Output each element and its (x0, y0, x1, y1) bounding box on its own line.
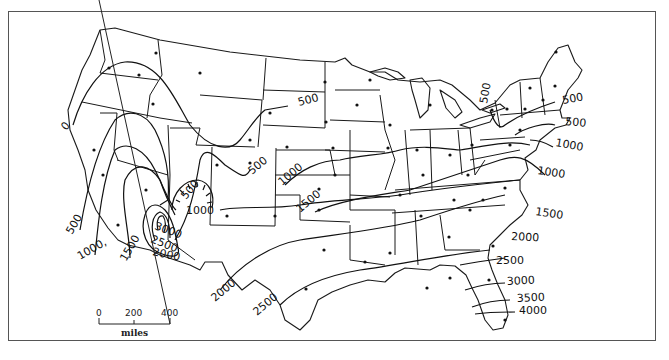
contour-label: 500 (477, 82, 493, 105)
contour-label: 1000 (186, 204, 214, 217)
contour-label: 1500 (117, 233, 142, 264)
contour-label: 3500 (516, 291, 545, 305)
scale-unit-label: miles (121, 328, 148, 338)
scale-tick-200: 200 (125, 308, 142, 318)
contour-label: 1000 (537, 164, 567, 181)
contour-label: 2500 (251, 290, 281, 318)
scale-tick-400: 400 (161, 308, 178, 318)
contour-label: 2500 (496, 254, 524, 267)
contour-label: 500 (63, 212, 85, 237)
contour-label: 3000 (506, 274, 535, 288)
us-contour-map: 05001000,1500200025003000100050050010005… (0, 0, 669, 360)
contour-labels: 05001000,1500200025003000100050050010005… (58, 82, 586, 319)
contour-label: 500 (565, 115, 587, 130)
scale-tick-0: 0 (96, 308, 102, 318)
contour-label: 1500 (535, 205, 565, 222)
contour-label: 500 (561, 91, 584, 107)
contour-label: 2000 (511, 230, 540, 244)
contour-label: 500 (296, 91, 320, 109)
contour-label: 500 (246, 154, 270, 177)
contour-label: 1000, (75, 236, 109, 263)
contour-label: 4000 (519, 304, 547, 317)
contour-label: 1000 (554, 136, 584, 154)
contour-label: 500 (178, 177, 201, 201)
contour-label: 1000 (276, 160, 306, 188)
